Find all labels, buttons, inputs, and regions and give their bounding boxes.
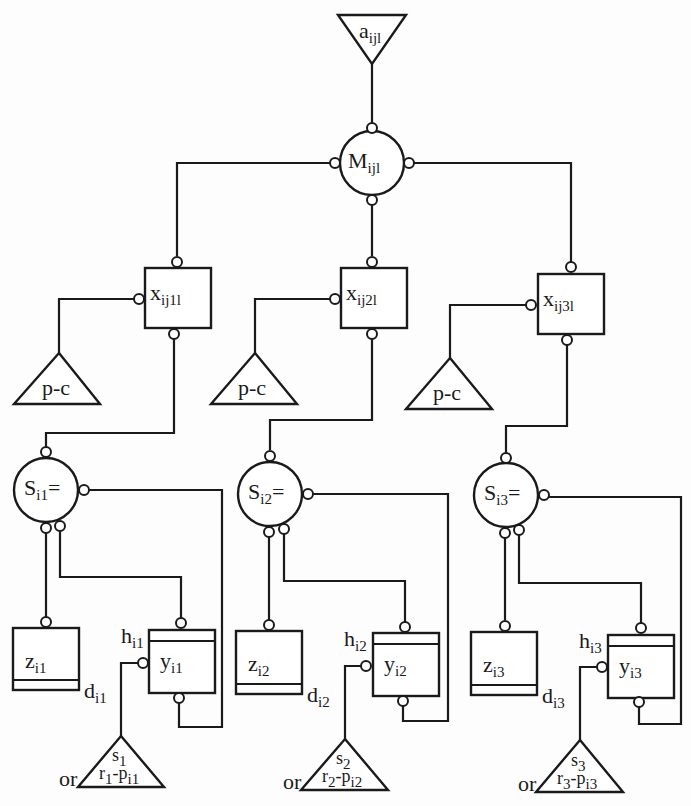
pc-triangle-3-label: p-c [433,382,461,404]
pc-triangle-1-label: p-c [42,377,70,399]
x-node-2-label: xij2l [346,282,377,308]
z-node-1-label: zi1 [25,650,46,676]
branch-1 [13,257,222,787]
s-node-3-label: Si3= [484,482,520,508]
x-node-3-label: xij3l [543,288,574,314]
y-node-2-label: yi2 [384,653,407,679]
d-label-1: di1 [84,680,107,706]
h-label-1: hi1 [121,625,144,651]
z-node-2-label: zi2 [248,653,269,679]
h-label-3: hi3 [579,630,602,656]
hub-label: Mijl [348,150,380,176]
x-node-1-label: xij1l [150,282,181,308]
s-node-2-label: Si2= [248,481,284,507]
y-node-1-label: yi1 [160,650,183,676]
tri-2-bottom-label: r2-pi2 [322,767,362,790]
d-label-2: di2 [307,684,330,710]
or-label-2: or [283,771,301,793]
tri-1-bottom-label: r1-pi1 [99,764,139,787]
diagram-canvas: aijl Mijl xij1l p-c Si1= zi1 di1 hi1 yi1… [0,0,691,806]
pc-triangle-2-label: p-c [238,377,266,399]
or-label-3: or [518,773,536,795]
d-label-3: di3 [542,685,565,711]
top-input-label: aijl [359,20,381,46]
z-node-3-label: zi3 [483,654,504,680]
s-node-1-label: Si1= [24,477,60,503]
y-node-3-label: yi3 [619,655,642,681]
branch-2 [211,257,448,790]
tri-3-bottom-label: r3-pi3 [557,769,597,792]
h-label-2: hi2 [344,628,367,654]
or-label-1: or [59,768,77,790]
